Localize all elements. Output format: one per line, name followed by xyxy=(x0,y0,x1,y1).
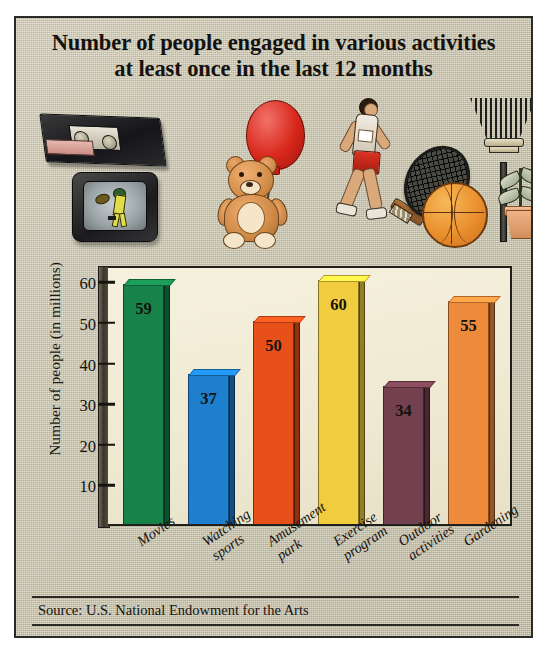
vhs-tape-illustration xyxy=(36,104,171,174)
flower-pot xyxy=(506,210,533,239)
bar-value-label: 59 xyxy=(123,299,164,319)
teddy-bear-balloon-illustration xyxy=(212,98,328,250)
y-tick-label-60: 60 xyxy=(62,274,96,294)
bar-top xyxy=(253,316,306,323)
bar-value-label: 60 xyxy=(318,295,359,315)
y-tick-label-50: 50 xyxy=(62,315,96,335)
bear-foot-right xyxy=(254,232,276,249)
tv-screen xyxy=(83,181,147,231)
bar-side xyxy=(229,374,235,524)
source-divider-top xyxy=(32,596,519,598)
bar-top xyxy=(188,369,241,376)
player-leg-right xyxy=(119,213,127,228)
bar-top xyxy=(123,279,176,286)
title-line-2: at least once in the last 12 months xyxy=(16,56,531,82)
bar-group: 34 xyxy=(383,381,430,524)
bear-foot-left xyxy=(223,232,245,249)
bar-group: 59 xyxy=(123,279,170,524)
bar-value-label: 55 xyxy=(448,316,489,336)
source-note: Source: U.S. National Endowment for the … xyxy=(38,602,309,619)
bar-side xyxy=(489,301,495,524)
bar-value-label: 50 xyxy=(253,336,294,356)
y-axis-notch-30 xyxy=(98,403,115,406)
y-tick-label-20: 20 xyxy=(62,437,96,457)
bar-outdoor-activities[interactable]: 34 xyxy=(383,381,430,524)
runner-bib xyxy=(357,129,373,143)
bar-watching-sports[interactable]: 37 xyxy=(188,369,235,524)
bar-value-label: 34 xyxy=(383,401,424,421)
y-axis-notch-60 xyxy=(98,281,115,284)
source-divider-bottom xyxy=(32,624,519,626)
runner-shoe-right xyxy=(365,207,387,220)
rake-tines xyxy=(470,98,533,140)
bar-face xyxy=(123,284,164,524)
y-tick-label-10: 10 xyxy=(62,477,96,497)
runner-shoe-left xyxy=(335,202,358,217)
illustration-band xyxy=(16,90,531,258)
bar-top xyxy=(383,381,436,388)
bar-group: 55 xyxy=(448,296,495,524)
bear-belly xyxy=(237,202,265,234)
title-line-1: Number of people engaged in various acti… xyxy=(16,30,531,56)
bar-side xyxy=(294,321,300,524)
y-axis-notch-20 xyxy=(98,444,115,447)
bar-top xyxy=(318,275,371,282)
y-tick-label-40: 40 xyxy=(62,356,96,376)
bar-gardening[interactable]: 55 xyxy=(448,296,495,524)
plot-area: 593750603455 xyxy=(108,266,512,526)
bar-group: 37 xyxy=(188,369,235,524)
bar-amusement-park[interactable]: 50 xyxy=(253,316,300,524)
bar-side xyxy=(359,280,365,524)
runner-leg-right xyxy=(362,167,383,211)
bar-value-label: 37 xyxy=(188,389,229,409)
bear-eye-left xyxy=(239,172,244,177)
y-axis-notch-50 xyxy=(98,322,115,325)
y-tick-label-30: 30 xyxy=(62,396,96,416)
bar-face xyxy=(318,280,359,524)
infographic-poster: Number of people engaged in various acti… xyxy=(14,16,533,638)
bar-side xyxy=(164,284,170,524)
bar-exercise-program[interactable]: 60 xyxy=(318,275,365,524)
bar-group: 50 xyxy=(253,316,300,524)
bar-chart: Number of people (in millions) 102030405… xyxy=(16,258,531,548)
bars-container: 593750603455 xyxy=(108,268,510,524)
y-axis-notch-10 xyxy=(98,484,115,487)
player-shoe xyxy=(108,216,116,220)
bar-movies[interactable]: 59 xyxy=(123,279,170,524)
bar-side xyxy=(424,386,430,524)
rake-plant-illustration xyxy=(468,96,533,248)
bar-top xyxy=(448,296,501,303)
y-axis-tick-labels: 102030405060 xyxy=(60,268,96,524)
television-illustration xyxy=(72,172,160,246)
bar-group: 60 xyxy=(318,275,365,524)
basketball-seam-curve-left xyxy=(418,182,453,244)
x-axis-category-labels: MoviesWatchingsportsAmusementparkExercis… xyxy=(108,530,512,602)
bear-nose xyxy=(246,182,253,187)
y-axis-notch-40 xyxy=(98,362,115,365)
football-icon xyxy=(94,192,111,206)
page-title: Number of people engaged in various acti… xyxy=(16,30,531,82)
vhs-label xyxy=(45,139,95,156)
bear-eye-right xyxy=(257,172,262,177)
